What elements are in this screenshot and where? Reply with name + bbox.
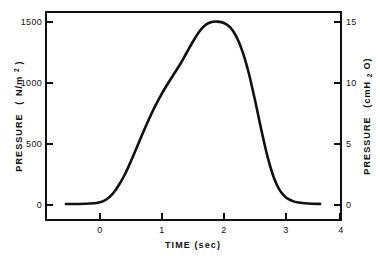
right-axis-title-subscript: 2 [366,73,373,77]
right-tick-label-5: 5 [346,139,351,149]
left-axis-title: PRESSURE ( N/m 2 ) [11,60,24,171]
x-tick-label-0: 0 [97,225,102,235]
right-tick-label-0: 0 [346,200,351,210]
x-tick-label-4: 4 [338,225,343,235]
bottom-axis-ticks [100,213,340,220]
right-axis-title-paren-open: (cmH [362,81,372,108]
left-axis-title-paren-open: ( [14,101,24,105]
pressure-curve [66,22,320,205]
svg-text:PRESSURE ( N/m: PRESSURE ( N/m 2 ) [11,60,24,171]
x-axis-title: TIME (sec) [165,240,221,250]
left-axis-ticks [46,22,53,205]
right-tick-label-10: 10 [346,78,357,88]
chart-figure: 1500 1000 500 0 15 10 5 0 0 1 2 3 4 TIME… [0,0,380,256]
left-tick-label-500: 500 [26,139,42,149]
x-tick-label-1: 1 [159,225,164,235]
right-axis-title-main: PRESSURE [362,116,372,174]
right-axis-title: PRESSURE (cmH 2 O) [362,57,374,174]
left-tick-label-1500: 1500 [21,17,42,27]
left-axis-title-exponent: 2 [13,68,20,72]
left-axis-title-paren-close: ) [14,60,24,64]
left-axis-title-main: PRESSURE [14,113,24,171]
left-tick-label-0: 0 [37,200,42,210]
x-tick-label-3: 3 [283,225,288,235]
left-axis-title-unit: N/m [14,76,24,96]
right-axis-title-paren-close: O) [362,57,372,69]
x-tick-label-2: 2 [221,225,226,235]
svg-text:PRESSURE (cmH: PRESSURE (cmH 2 O) [362,57,374,174]
pressure-waveform-chart: 1500 1000 500 0 15 10 5 0 0 1 2 3 4 TIME… [0,0,380,256]
right-axis-ticks [334,22,341,205]
right-tick-label-15: 15 [346,17,357,27]
